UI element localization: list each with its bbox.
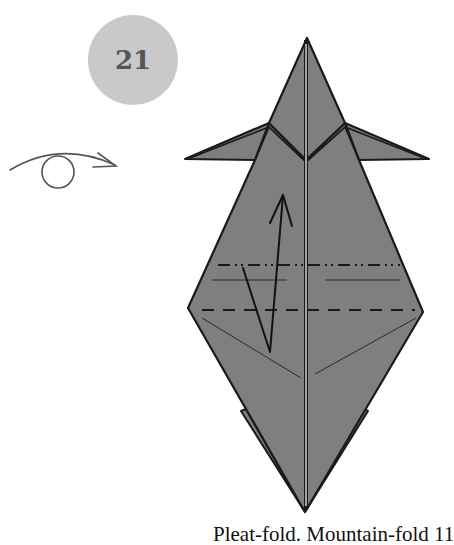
turn-over-icon [10,153,116,188]
step-caption: Pleat-fold. Mountain-fold 11 [213,522,454,545]
